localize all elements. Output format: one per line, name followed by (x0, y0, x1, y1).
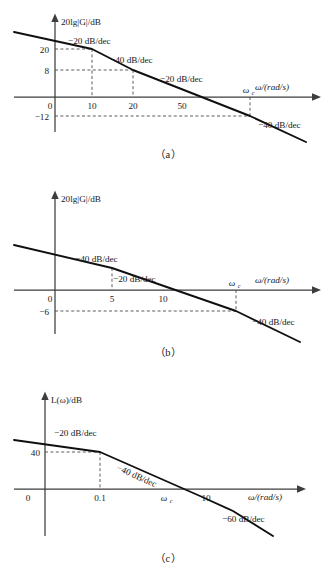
plot-a-canvas: 20 8 −12 0 10 20 50 ω c 20lg|G|/dB ω/(ra… (0, 0, 336, 146)
plot-a-cutoff-marker: ω c (243, 85, 255, 96)
bode-plot-figure-c: 40 0 0.1 10 ω c L(ω)/dB ω/(rad/s) −20 dB… (0, 370, 336, 574)
plot-b-xlabel: ω/(rad/s) (255, 275, 289, 285)
bode-plot-figure-b: −6 0 5 10 ω c 20lg|G|/dB ω/(rad/s) −40 d… (0, 170, 336, 370)
plot-a-cutoff-label: ω (243, 85, 250, 95)
plot-a-xtick-50: 50 (177, 101, 187, 111)
plot-b-canvas: −6 0 5 10 ω c 20lg|G|/dB ω/(rad/s) −40 d… (0, 170, 336, 344)
figure-a-caption: （a） (0, 146, 336, 161)
plot-a-xlabel: ω/(rad/s) (255, 82, 289, 92)
plot-b-xtick-10: 10 (158, 294, 168, 304)
plot-c-xlabel: ω/(rad/s) (248, 492, 282, 502)
figure-c-caption: （c） (0, 550, 336, 565)
plot-c-ylabel: L(ω)/dB (51, 395, 82, 405)
plot-c-slope-3: −60 dB/dec (222, 514, 265, 524)
plot-b-ylabel: 20lg|G|/dB (61, 194, 101, 204)
plot-c-y-axis (41, 392, 48, 537)
plot-a-x-axis (14, 93, 321, 101)
plot-a-slope-1: −20 dB/dec (68, 36, 111, 46)
plot-a-ytick-8: 8 (44, 66, 49, 76)
plot-b-cutoff-subscript: c (238, 282, 241, 289)
plot-a-slope-3: −20 dB/dec (160, 74, 203, 84)
plot-c-xtick-10: 10 (201, 493, 211, 503)
plot-a-xtick-10: 10 (87, 101, 97, 111)
plot-a-origin-label: 0 (48, 101, 53, 111)
plot-c-dashed-guides (45, 452, 100, 489)
plot-c-cutoff-label: ω (161, 493, 168, 503)
plot-c-cutoff-marker: ω c (161, 493, 173, 504)
plot-c-canvas: 40 0 0.1 10 ω c L(ω)/dB ω/(rad/s) −20 dB… (0, 370, 336, 550)
bode-plot-figure-a: 20 8 −12 0 10 20 50 ω c 20lg|G|/dB ω/(ra… (0, 0, 336, 170)
plot-b-magnitude-curve (14, 245, 300, 342)
figure-b-caption: （b） (0, 344, 336, 359)
plot-b-slope-1: −40 dB/dec (75, 254, 118, 264)
plot-a-ytick-minus12: −12 (35, 112, 50, 122)
plot-b-y-axis (51, 191, 58, 335)
plot-c-slope-1: −20 dB/dec (54, 428, 97, 438)
plot-c-xtick-0p1: 0.1 (94, 493, 106, 503)
plot-a-y-axis (51, 14, 58, 133)
plot-b-cutoff-marker: ω c (229, 278, 241, 289)
plot-a-slope-2: −40 dB/dec (110, 55, 153, 65)
plot-b-ytick-minus6: −6 (39, 307, 49, 317)
plot-a-xtick-20: 20 (128, 101, 138, 111)
plot-c-origin-label: 0 (26, 493, 31, 503)
plot-c-ytick-40: 40 (31, 448, 41, 458)
plot-a-slope-4: −40 dB/dec (258, 120, 301, 130)
plot-c-slope-2: −40 dB/dec (115, 463, 158, 490)
plot-c-cutoff-subscript: c (170, 497, 173, 504)
plot-b-slope-2: −20 dB/dec (113, 274, 156, 284)
plot-b-slope-3: −40 dB/dec (252, 317, 295, 327)
plot-b-cutoff-label: ω (229, 278, 236, 288)
plot-b-xtick-5: 5 (110, 294, 115, 304)
plot-a-ylabel: 20lg|G|/dB (61, 17, 101, 27)
plot-b-origin-label: 0 (48, 294, 53, 304)
plot-a-ytick-20: 20 (40, 45, 50, 55)
